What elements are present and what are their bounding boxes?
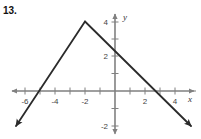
y-tick-label-pos4: 4 (104, 18, 109, 27)
absolute-value-curve (16, 22, 191, 127)
curve-right-branch (85, 22, 191, 127)
y-tick-label-pos2: 2 (104, 52, 109, 61)
x-tick-label-neg4: -4 (51, 97, 59, 106)
x-axis-label: x (187, 94, 192, 104)
x-tick-label-neg6: -6 (21, 97, 29, 106)
x-tick-label-pos4: 4 (173, 97, 178, 106)
x-tick-label-neg2: -2 (81, 97, 89, 106)
x-tick-label-pos2: 2 (143, 97, 148, 106)
figure-container: 13. -6 -4 (0, 0, 201, 139)
coordinate-graph: -6 -4 -2 2 4 x 4 2 -2 y (0, 0, 201, 139)
y-axis: 4 2 -2 y (101, 12, 127, 134)
curve-left-branch (16, 22, 85, 127)
y-axis-label: y (122, 12, 127, 22)
y-tick-label-neg2: -2 (101, 122, 109, 131)
